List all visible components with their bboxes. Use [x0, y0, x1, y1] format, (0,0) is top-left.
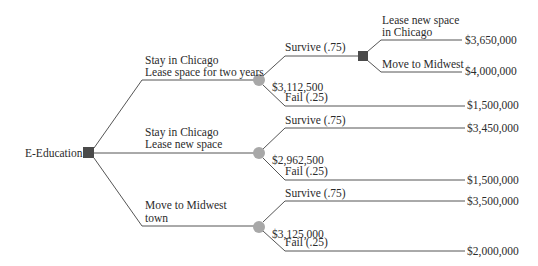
alt2-fail-label: Fail (.25)	[285, 165, 328, 178]
branch-alt3-survive	[263, 201, 465, 222]
payoff-move-midwest: $4,000,000	[465, 65, 517, 78]
alt3-fail-label: Fail (.25)	[285, 236, 328, 249]
alt2-label-line2: Lease new space	[145, 138, 222, 151]
payoff-alt2-survive: $3,450,000	[467, 122, 519, 135]
lease-new-label-line2: in Chicago	[382, 26, 432, 39]
alt3-label-line2: town	[145, 212, 168, 225]
alt1-survive-label: Survive (.75)	[285, 41, 346, 54]
branch-alt2-survive	[263, 128, 465, 149]
alt3-survive-label: Survive (.75)	[285, 187, 346, 200]
branch-alt1-survive	[263, 56, 360, 76]
branch-alt-3	[94, 158, 258, 226]
branch-lease-new	[367, 40, 462, 52]
root-decision-node	[83, 147, 94, 158]
payoff-alt2-fail: $1,500,000	[467, 174, 519, 187]
chance-node-alt3	[253, 221, 265, 233]
alt1-fail-label: Fail (.25)	[285, 91, 328, 104]
decision-tree-lines	[0, 0, 538, 266]
second-decision-node	[358, 51, 368, 61]
payoff-alt1-fail: $1,500,000	[467, 99, 519, 112]
payoff-lease-new: $3,650,000	[465, 34, 517, 47]
payoff-alt3-survive: $3,500,000	[467, 195, 519, 208]
alt3-label-line1: Move to Midwest	[145, 199, 227, 212]
root-label: E-Education	[25, 147, 82, 160]
alt2-survive-label: Survive (.75)	[285, 114, 346, 127]
move-midwest-label: Move to Midwest	[382, 58, 464, 71]
chance-node-alt2	[253, 147, 265, 159]
payoff-alt3-fail: $2,000,000	[467, 245, 519, 258]
alt1-label-line2: Lease space for two years	[145, 66, 264, 79]
